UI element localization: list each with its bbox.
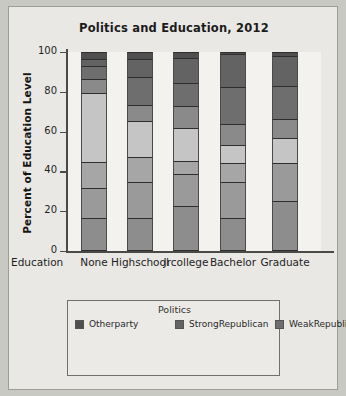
bar-segment[interactable] [173, 206, 199, 251]
bar-segment[interactable] [220, 182, 246, 218]
legend-swatch [175, 320, 184, 329]
bar-segment[interactable] [220, 52, 246, 54]
bar-segment[interactable] [173, 83, 199, 106]
legend: Politics OtherpartyStrongRepublicanWeakR… [67, 300, 280, 376]
y-tick [60, 171, 66, 172]
legend-label: StrongRepublican [189, 319, 268, 329]
bar-highschool[interactable] [127, 52, 153, 251]
bar-segment[interactable] [272, 138, 298, 164]
y-tick [60, 211, 66, 212]
bar-segment[interactable] [272, 52, 298, 56]
legend-items: OtherpartyStrongRepublicanWeakRepublican… [75, 317, 275, 331]
bar-jrcollege[interactable] [173, 52, 199, 251]
bar-segment[interactable] [81, 59, 107, 66]
bar-segment[interactable] [81, 52, 107, 59]
bar-segment[interactable] [173, 52, 199, 58]
bar-segment[interactable] [272, 163, 298, 201]
legend-swatch [75, 320, 84, 329]
bar-none[interactable] [81, 52, 107, 251]
y-tick-label: 0 [17, 244, 57, 255]
y-tick [60, 132, 66, 133]
bar-segment[interactable] [272, 56, 298, 86]
legend-label: Otherparty [89, 319, 138, 329]
bar-segment[interactable] [127, 105, 153, 121]
y-tick [60, 251, 66, 252]
bar-segment[interactable] [127, 77, 153, 105]
bar-segment[interactable] [81, 79, 107, 93]
bar-segment[interactable] [127, 218, 153, 251]
legend-item-weakrepublican[interactable]: WeakRepublican [275, 317, 346, 331]
y-tick-label: 80 [17, 85, 57, 96]
bar-segment[interactable] [81, 93, 107, 163]
y-tick-label: 60 [17, 125, 57, 136]
x-axis-line [66, 251, 334, 253]
y-tick-label: 20 [17, 204, 57, 215]
bar-segment[interactable] [127, 121, 153, 158]
legend-item-strongrepublican[interactable]: StrongRepublican [175, 317, 275, 331]
bar-segment[interactable] [127, 59, 153, 77]
x-tick-label-graduate: Graduate [252, 256, 318, 268]
chart-title: Politics and Education, 2012 [9, 21, 339, 35]
bar-segment[interactable] [127, 52, 153, 59]
bar-segment[interactable] [220, 87, 246, 124]
y-tick-label: 40 [17, 164, 57, 175]
bar-segment[interactable] [173, 161, 199, 174]
y-tick [60, 92, 66, 93]
bar-segment[interactable] [127, 157, 153, 182]
chart-page: Politics and Education, 2012 Percent of … [8, 6, 338, 390]
bar-segment[interactable] [220, 163, 246, 182]
bar-graduate[interactable] [272, 52, 298, 251]
y-tick-label: 100 [17, 45, 57, 56]
bar-segment[interactable] [272, 201, 298, 251]
bar-segment[interactable] [220, 124, 246, 145]
bar-segment[interactable] [173, 174, 199, 206]
bar-segment[interactable] [81, 162, 107, 188]
bar-segment[interactable] [81, 188, 107, 218]
bar-segment[interactable] [220, 54, 246, 87]
y-tick [60, 52, 66, 53]
legend-item-otherparty[interactable]: Otherparty [75, 317, 175, 331]
bar-segment[interactable] [173, 106, 199, 128]
legend-label: WeakRepublican [289, 319, 346, 329]
bar-segment[interactable] [81, 66, 107, 79]
bar-segment[interactable] [81, 218, 107, 251]
bar-segment[interactable] [220, 145, 246, 164]
x-axis-title: Education [11, 256, 73, 268]
legend-swatch [275, 320, 284, 329]
legend-title: Politics [68, 304, 281, 315]
bar-segment[interactable] [272, 119, 298, 138]
bar-segment[interactable] [272, 86, 298, 119]
bar-segment[interactable] [127, 182, 153, 218]
bar-segment[interactable] [173, 58, 199, 83]
y-axis-line [66, 49, 68, 253]
chart-panel: Politics and Education, 2012 Percent of … [9, 7, 339, 289]
bar-bachelor[interactable] [220, 52, 246, 251]
bar-segment[interactable] [220, 218, 246, 251]
bar-segment[interactable] [173, 128, 199, 162]
